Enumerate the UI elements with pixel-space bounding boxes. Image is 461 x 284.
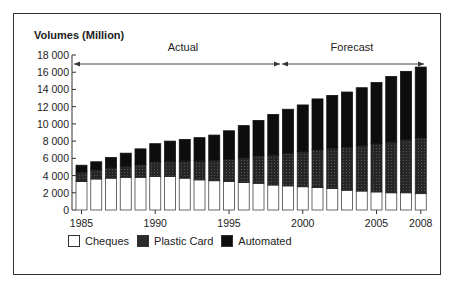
cheques-swatch — [68, 235, 80, 247]
bar-1993 — [194, 138, 205, 210]
bar-1999 — [283, 109, 294, 210]
x-tick-label: 2008 — [409, 217, 433, 229]
bar-segment-plastic-card — [209, 160, 220, 181]
bar-segment-plastic-card — [356, 145, 367, 191]
bar-segment-plastic-card — [401, 139, 412, 192]
bar-1998 — [268, 114, 279, 210]
bar-segment-plastic-card — [179, 161, 190, 178]
bar-1990 — [150, 144, 161, 210]
bar-1994 — [209, 135, 220, 210]
legend-label: Automated — [238, 235, 291, 247]
bar-2002 — [327, 95, 338, 210]
bar-segment-cheques — [194, 180, 205, 210]
forecast-label: Forecast — [331, 41, 374, 53]
legend-label: Cheques — [85, 235, 129, 247]
bar-segment-cheques — [342, 190, 353, 210]
arrowhead-right-icon — [418, 62, 424, 67]
y-tick-label: 0 — [63, 204, 69, 216]
arrowhead-left-icon — [282, 62, 288, 67]
bar-segment-automated — [224, 131, 235, 159]
bar-segment-cheques — [415, 194, 426, 210]
bar-segment-cheques — [165, 176, 176, 210]
bar-2001 — [312, 99, 323, 210]
bar-1985 — [76, 165, 87, 210]
bar-segment-plastic-card — [106, 168, 117, 178]
bar-segment-plastic-card — [224, 159, 235, 181]
bar-segment-automated — [106, 157, 117, 167]
bar-segment-cheques — [283, 186, 294, 210]
bar-segment-cheques — [312, 188, 323, 210]
bar-segment-plastic-card — [76, 172, 87, 181]
bar-segment-cheques — [179, 178, 190, 210]
bar-segment-cheques — [327, 188, 338, 210]
x-tick-label: 1985 — [70, 217, 94, 229]
legend-item-plastic-card: Plastic Card — [137, 235, 213, 247]
bar-segment-plastic-card — [194, 161, 205, 180]
bar-2007 — [401, 71, 412, 210]
legend-label: Plastic Card — [154, 235, 213, 247]
bar-segment-plastic-card — [342, 147, 353, 190]
bar-segment-automated — [342, 92, 353, 147]
bar-segment-automated — [238, 126, 249, 158]
bar-segment-plastic-card — [415, 138, 426, 194]
bar-1997 — [253, 120, 264, 210]
bar-segment-plastic-card — [283, 153, 294, 186]
bar-2006 — [386, 77, 397, 210]
bar-segment-cheques — [120, 177, 131, 210]
legend: Cheques Plastic Card Automated — [68, 235, 300, 247]
bar-segment-automated — [253, 120, 264, 155]
bar-segment-automated — [135, 149, 146, 165]
bar-segment-plastic-card — [238, 157, 249, 182]
bar-segment-cheques — [253, 183, 264, 210]
bar-segment-automated — [179, 139, 190, 161]
bar-segment-cheques — [268, 185, 279, 210]
bar-2008 — [415, 67, 426, 210]
bar-segment-automated — [371, 83, 382, 144]
bar-segment-automated — [120, 153, 131, 166]
y-tick-label: 8 000 — [43, 135, 69, 147]
bar-segment-cheques — [91, 179, 102, 210]
bar-segment-automated — [415, 67, 426, 138]
bar-segment-automated — [401, 71, 412, 139]
bar-segment-automated — [268, 114, 279, 154]
bar-segment-plastic-card — [150, 162, 161, 177]
y-tick-label: 2 000 — [43, 187, 69, 199]
bar-segment-cheques — [150, 176, 161, 210]
y-tick-label: 4 000 — [43, 170, 69, 182]
bar-segment-plastic-card — [120, 166, 131, 177]
bar-segment-cheques — [224, 182, 235, 210]
bar-segment-cheques — [238, 182, 249, 210]
x-tick-label: 1990 — [144, 217, 168, 229]
x-tick-label: 2000 — [291, 217, 315, 229]
bar-segment-automated — [209, 135, 220, 160]
bar-segment-automated — [312, 99, 323, 150]
bar-segment-automated — [91, 162, 102, 170]
bar-segment-automated — [194, 138, 205, 161]
legend-item-cheques: Cheques — [68, 235, 129, 247]
arrowhead-right-icon — [274, 62, 280, 67]
bar-segment-plastic-card — [253, 156, 264, 184]
bar-1991 — [165, 141, 176, 210]
y-tick-label: 12 000 — [37, 101, 69, 113]
bar-segment-cheques — [106, 178, 117, 210]
arrowhead-left-icon — [74, 62, 80, 67]
bar-1995 — [224, 131, 235, 210]
bar-2005 — [371, 83, 382, 210]
bar-segment-automated — [297, 105, 308, 152]
bar-segment-plastic-card — [386, 142, 397, 193]
bar-segment-plastic-card — [135, 164, 146, 177]
bar-1996 — [238, 126, 249, 210]
bar-1986 — [91, 162, 102, 210]
bar-2004 — [356, 88, 367, 210]
bar-segment-plastic-card — [312, 150, 323, 188]
y-tick-label: 18 000 — [37, 49, 69, 61]
bar-segment-automated — [356, 88, 367, 146]
bar-segment-plastic-card — [371, 144, 382, 192]
y-tick-label: 6 000 — [43, 152, 69, 164]
y-tick-label: 14 000 — [37, 83, 69, 95]
bar-segment-automated — [386, 77, 397, 142]
bar-segment-cheques — [297, 187, 308, 210]
bar-1988 — [120, 153, 131, 210]
bar-segment-cheques — [135, 177, 146, 210]
period-annotations: Actual Forecast — [74, 41, 424, 67]
